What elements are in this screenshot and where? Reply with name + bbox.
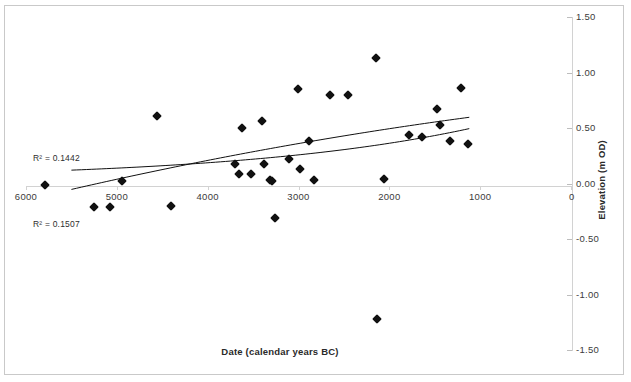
plot-area: 6000500040003000200010000 1.501.000.500.… bbox=[0, 0, 631, 382]
y-axis-title: Elevation (m OD) bbox=[596, 140, 607, 220]
chart-screenshot: 6000500040003000200010000 1.501.000.500.… bbox=[0, 0, 631, 382]
r-squared-label-upper: R² = 0.1442 bbox=[33, 153, 80, 163]
trendline-group bbox=[0, 0, 631, 382]
r-squared-label-lower: R² = 0.1507 bbox=[33, 219, 80, 229]
x-axis-title: Date (calendar years BC) bbox=[0, 346, 560, 357]
